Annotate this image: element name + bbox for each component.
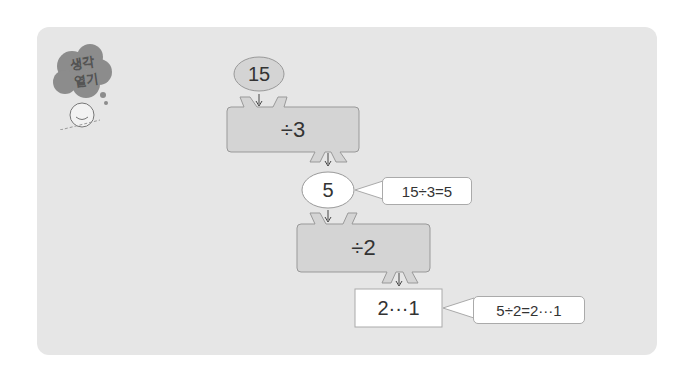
mid-value: 5 [302, 179, 354, 202]
result-value: 2···1 [355, 297, 442, 320]
note-bubble-1: 15÷3=5 [382, 177, 472, 205]
note1-text: 15÷3=5 [402, 183, 452, 200]
step1-operation: ÷3 [227, 117, 359, 143]
start-value: 15 [234, 63, 284, 86]
step2-operation: ÷2 [297, 235, 430, 261]
note-bubble-2: 5÷2=2···1 [473, 296, 585, 324]
note2-text: 5÷2=2···1 [496, 302, 561, 319]
